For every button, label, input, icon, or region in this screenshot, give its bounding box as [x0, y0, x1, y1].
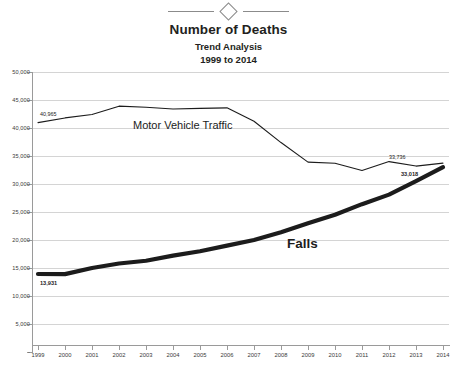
- x-axis-tick: [254, 345, 255, 350]
- y-axis-tick-label: 5,000: [0, 321, 30, 327]
- y-axis-tick-label: 45,000: [0, 97, 30, 103]
- x-axis-tick: [92, 345, 93, 350]
- y-axis-tick-label: 30,000: [0, 181, 30, 187]
- y-axis-tick-label: 15,000: [0, 265, 30, 271]
- chart-subtitle: Trend Analysis: [0, 41, 457, 52]
- x-axis-tick-label: 2011: [347, 352, 377, 358]
- y-axis-tick-label: 50,000: [0, 69, 30, 75]
- annotation-falls-start: 13,931: [40, 280, 57, 286]
- x-axis-tick-label: 2007: [239, 352, 269, 358]
- x-axis-tick: [335, 345, 336, 350]
- x-axis-tick: [173, 345, 174, 350]
- x-axis-tick-label: 2000: [50, 352, 80, 358]
- x-axis-tick-label: 2009: [293, 352, 323, 358]
- x-axis-tick: [443, 345, 444, 350]
- series-label-motor-vehicle-traffic: Motor Vehicle Traffic: [133, 119, 232, 131]
- divider-line-left: [168, 11, 214, 12]
- annotation-mvt-end: 33,736: [389, 154, 406, 160]
- x-axis-tick-label: 1999: [23, 352, 53, 358]
- annotation-falls-end: 33,018: [401, 171, 418, 177]
- annotation-mvt-start: 40,965: [40, 111, 57, 117]
- chart-subtitle-range: 1999 to 2014: [0, 54, 457, 65]
- x-axis-tick: [65, 345, 66, 350]
- x-axis-tick: [308, 345, 309, 350]
- diamond-divider-ornament: [0, 4, 457, 20]
- x-axis-tick-label: 2004: [158, 352, 188, 358]
- series-line-falls: [38, 167, 443, 274]
- x-axis-tick: [200, 345, 201, 350]
- chart-area: 50,00045,00040,00035,00030,00025,00020,0…: [0, 66, 457, 356]
- x-axis-line: [32, 345, 450, 346]
- x-axis-tick-label: 2005: [185, 352, 215, 358]
- x-axis-tick: [146, 345, 147, 350]
- series-line-motor-vehicle-traffic: [38, 106, 443, 170]
- y-axis-tick-label: 35,000: [0, 153, 30, 159]
- y-axis-tick-label: 20,000: [0, 237, 30, 243]
- chart-page: Number of Deaths Trend Analysis 1999 to …: [0, 0, 457, 373]
- x-axis-tick-label: 2010: [320, 352, 350, 358]
- x-axis-tick: [416, 345, 417, 350]
- x-axis-tick: [227, 345, 228, 350]
- y-axis-labels: 50,00045,00040,00035,00030,00025,00020,0…: [0, 72, 30, 352]
- x-axis-tick-label: 2006: [212, 352, 242, 358]
- series-label-falls: Falls: [287, 236, 318, 251]
- x-axis-tick-label: 2014: [428, 352, 457, 358]
- x-axis-tick: [119, 345, 120, 350]
- plot-area: [32, 72, 449, 352]
- x-axis-tick: [362, 345, 363, 350]
- x-axis-tick-label: 2003: [131, 352, 161, 358]
- y-axis-tick-label: 10,000: [0, 293, 30, 299]
- x-axis-tick-label: 2001: [77, 352, 107, 358]
- chart-title: Number of Deaths: [0, 22, 457, 37]
- x-axis-tick: [389, 345, 390, 350]
- footnote: [0, 364, 457, 373]
- x-axis-tick: [281, 345, 282, 350]
- x-axis-tick-label: 2012: [374, 352, 404, 358]
- x-axis-tick-label: 2008: [266, 352, 296, 358]
- y-axis-tick-label: 40,000: [0, 125, 30, 131]
- x-axis-tick: [38, 345, 39, 350]
- divider-line-right: [243, 11, 289, 12]
- x-axis-tick-label: 2002: [104, 352, 134, 358]
- diamond-icon: [219, 2, 237, 20]
- x-axis-tick-label: 2013: [401, 352, 431, 358]
- series-lines: [32, 72, 449, 352]
- y-axis-tick-label: 25,000: [0, 209, 30, 215]
